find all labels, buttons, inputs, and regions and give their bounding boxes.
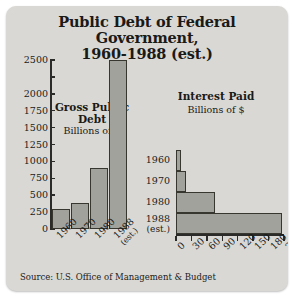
right-chart-bar — [176, 192, 215, 213]
right-chart-x-tick-label: 90 — [221, 235, 237, 251]
left-chart-y-tick-label: 1750 — [8, 105, 48, 116]
right-chart-subtitle: Billions of $ — [156, 104, 276, 115]
left-chart-y-tick-label: 1000 — [8, 155, 48, 166]
right-chart-x-tick — [175, 236, 177, 241]
source-note: Source: U.S. Office of Management & Budg… — [20, 272, 216, 282]
left-chart-y-tick-label: 1250 — [8, 139, 48, 150]
left-chart-y-tick-label: 500 — [8, 189, 48, 200]
right-chart-bar — [176, 171, 186, 192]
right-chart-category-label: 1980 — [124, 197, 170, 207]
right-chart-title: Interest Paid — [156, 90, 276, 102]
right-chart-bar — [176, 150, 181, 171]
right-chart-x-tick-label: 30 — [190, 235, 206, 251]
left-chart-y-tick-label: 2500 — [8, 54, 48, 65]
left-chart-y-tick-labels: 0250500750100012501500175020002500 — [6, 6, 48, 291]
left-chart-y-tick-label: 1500 — [8, 122, 48, 133]
right-chart-category-label: 1970 — [124, 176, 170, 186]
right-chart-x-tick — [237, 236, 239, 241]
right-chart-x-tick — [206, 236, 208, 241]
right-chart-title-text: Interest Paid — [178, 90, 254, 102]
chart-card: Public Debt of Federal Government, 1960-… — [6, 6, 288, 291]
right-chart-x-tick-label: 0 — [175, 240, 187, 252]
right-chart-bar — [176, 213, 282, 234]
right-chart-category-label: 1960 — [124, 155, 170, 165]
left-chart-y-tick-label: 750 — [8, 172, 48, 183]
left-chart-y-tick-label: 0 — [8, 223, 48, 234]
left-chart-bars — [52, 60, 128, 229]
right-chart-category-label: 1988(est.) — [124, 214, 170, 234]
plot-area: 0250500750100012501500175020002500 Gross… — [6, 6, 288, 291]
left-chart-y-tick-label: 250 — [8, 206, 48, 217]
left-chart-y-tick-label: 2000 — [8, 88, 48, 99]
